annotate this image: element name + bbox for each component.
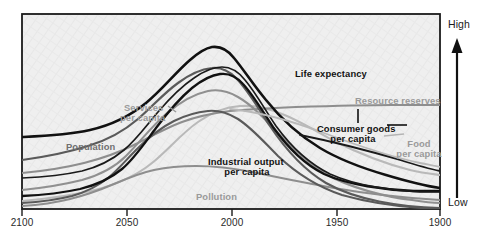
x-axis-tick-label-0: 2100 [4,218,40,228]
x-axis-tick-label-2: 2000 [214,218,250,228]
y-axis-low-label: Low [448,197,468,208]
series-label-resource-reserves: Resource reserves [355,96,441,106]
series-label-industrial-output-per-capita-line2: per capita [208,167,286,177]
series-label-pollution: Pollution [196,192,237,202]
x-axis-tick-label-1: 2050 [109,218,145,228]
series-label-services-per-capita-line2: per capita [120,113,165,123]
x-axis-tick-label-4: 1900 [422,218,458,228]
series-label-food-per-capita-line2: per capita [392,149,446,159]
series-label-life-expectancy: Life expectancy [295,69,367,79]
x-axis-tick-label-3: 1950 [319,218,355,228]
series-label-consumer-goods-per-capita-line2: per capita [317,134,389,144]
chart-canvas [0,0,497,240]
x-axis-ticks [22,209,440,216]
y-axis-high-label: High [448,19,470,30]
y-axis-direction-arrow [452,38,463,198]
series-label-population: Population [66,142,115,152]
chart-figure: Life expectancy Resource reserves Consum… [0,0,497,240]
